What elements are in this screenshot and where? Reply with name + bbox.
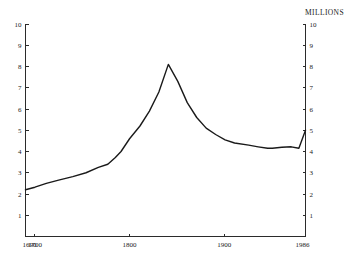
chart-canvas: MILLIONS 10987654321 10987654321 1690170… — [0, 0, 348, 267]
chart-unit-title: MILLIONS — [305, 8, 344, 17]
y-axis-right-tick-label: 3 — [310, 169, 314, 177]
y-axis-right-tick-label: 4 — [310, 148, 314, 156]
y-axis-left-tick-label: 5 — [18, 127, 22, 135]
x-axis-tick-label: 1986 — [296, 241, 311, 249]
population-series-line — [26, 64, 306, 189]
y-axis-left-tick-label: 7 — [18, 84, 22, 92]
y-axis-right-tick-label: 7 — [310, 84, 314, 92]
x-axis-tick-label: 1900 — [217, 241, 232, 249]
population-line-chart: MILLIONS 10987654321 10987654321 1690170… — [0, 0, 348, 267]
y-axis-right-tick-label: 5 — [310, 127, 314, 135]
y-axis-right-tick-label: 9 — [310, 42, 314, 50]
y-axis-right-tick-label: 10 — [310, 21, 318, 29]
y-axis-right-tick-label: 1 — [310, 212, 314, 220]
x-axis-tick-label: 1700 — [28, 241, 43, 249]
y-axis-left-tick-label: 4 — [18, 148, 22, 156]
y-axis-left-tick-label: 6 — [18, 106, 22, 114]
x-axis-tick-label: 1800 — [123, 241, 138, 249]
x-axis-ticks: 16901700180019001986 — [23, 234, 311, 249]
y-axis-right-ticks: 10987654321 — [303, 21, 318, 220]
y-axis-left-tick-label: 8 — [18, 63, 22, 71]
y-axis-left-tick-label: 3 — [18, 169, 22, 177]
y-axis-right-tick-label: 2 — [310, 191, 314, 199]
y-axis-left-tick-label: 10 — [15, 21, 23, 29]
y-axis-left-tick-label: 1 — [18, 212, 22, 220]
y-axis-right-tick-label: 8 — [310, 63, 314, 71]
y-axis-right-tick-label: 6 — [310, 106, 314, 114]
y-axis-left-tick-label: 9 — [18, 42, 22, 50]
y-axis-left-tick-label: 2 — [18, 191, 22, 199]
